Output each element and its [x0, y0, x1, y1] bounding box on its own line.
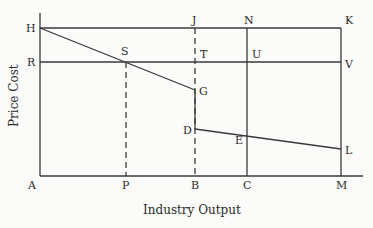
- label-j: J: [192, 15, 196, 26]
- diagram-canvas: H R S J N K T U V G D E L A P B C M Indu…: [0, 0, 373, 228]
- label-k: K: [345, 15, 353, 26]
- label-u: U: [252, 49, 261, 60]
- y-axis-title: Price Cost: [8, 67, 20, 127]
- label-a: A: [28, 180, 36, 191]
- label-h: H: [26, 23, 36, 34]
- label-g: G: [199, 86, 208, 97]
- x-axis-title: Industry Output: [143, 204, 241, 216]
- label-p: P: [122, 180, 129, 191]
- line-h-g: [40, 28, 195, 90]
- label-r: R: [27, 57, 35, 68]
- label-l: L: [345, 145, 352, 156]
- diagram-lines: [0, 0, 373, 228]
- label-v: V: [345, 59, 353, 70]
- label-m: M: [336, 180, 347, 191]
- label-c: C: [243, 180, 251, 191]
- line-d-l: [195, 129, 341, 149]
- label-e: E: [235, 135, 243, 146]
- label-n: N: [244, 15, 254, 26]
- label-s: S: [121, 46, 129, 57]
- label-t: T: [200, 49, 207, 60]
- label-b: B: [191, 180, 199, 191]
- label-d: D: [183, 125, 192, 136]
